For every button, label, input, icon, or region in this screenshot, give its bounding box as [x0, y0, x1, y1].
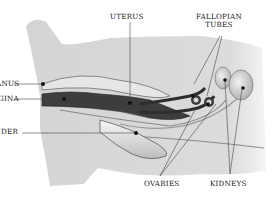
label-kidneys: KIDNEYS [210, 180, 247, 188]
label-fallopian-line2: TUBES [196, 21, 242, 29]
label-fallopian-tubes: FALLOPIAN TUBES [196, 13, 242, 29]
label-uterus: UTERUS [110, 13, 144, 21]
label-bladder: DER [1, 128, 18, 136]
anatomy-diagram [0, 0, 275, 206]
label-anus: ANUS [0, 80, 19, 88]
label-ovaries: OVARIES [144, 180, 179, 188]
ovary-right [204, 97, 214, 107]
kidney-left [215, 67, 231, 89]
label-vagina: GINA [0, 95, 19, 103]
